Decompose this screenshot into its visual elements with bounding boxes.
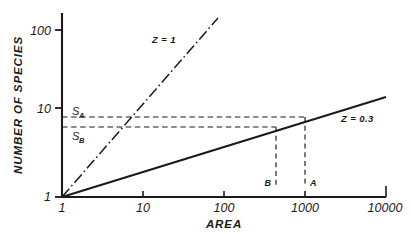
series-label-z-point-three: Z = 0.3 bbox=[340, 113, 374, 124]
y-tick-label-10: 10 bbox=[37, 102, 51, 116]
axis-group bbox=[62, 13, 386, 197]
annotation-s-a: S A bbox=[72, 105, 84, 120]
x-tick-label-1000: 1000 bbox=[291, 201, 319, 215]
chart-canvas: 1 10 100 1000 10000 1 10 100 AREA NUMBER… bbox=[0, 0, 411, 234]
annotation-s-a-subscript: A bbox=[78, 111, 84, 120]
x-tick-label-10000: 10000 bbox=[368, 201, 403, 215]
annotation-point-b-label: B bbox=[265, 178, 272, 188]
annotation-point-a-label: A bbox=[309, 178, 317, 188]
x-axis-title: AREA bbox=[205, 218, 242, 230]
series-z-one-group bbox=[62, 18, 218, 197]
x-tick-label-100: 100 bbox=[214, 201, 235, 215]
species-area-chart-figure: 1 10 100 1000 10000 1 10 100 AREA NUMBER… bbox=[0, 0, 411, 234]
annotation-s-b: S B bbox=[72, 130, 85, 145]
x-tick-marks bbox=[62, 186, 386, 197]
x-tick-label-1: 1 bbox=[59, 201, 66, 215]
y-tick-label-1: 1 bbox=[44, 190, 51, 204]
x-tick-label-10: 10 bbox=[136, 201, 150, 215]
y-tick-label-group: 1 10 100 bbox=[30, 24, 51, 204]
series-label-z-one: Z = 1 bbox=[151, 34, 176, 45]
y-axis-title: NUMBER OF SPECIES bbox=[12, 36, 24, 174]
series-z-one-line bbox=[62, 18, 218, 197]
x-tick-label-group: 1 10 100 1000 10000 bbox=[59, 201, 403, 215]
series-z-point-three-group bbox=[62, 97, 386, 197]
guide-lines-group bbox=[62, 117, 305, 186]
series-z-point-three-line bbox=[62, 97, 386, 197]
annotation-s-b-subscript: B bbox=[79, 136, 85, 145]
y-tick-label-100: 100 bbox=[30, 24, 51, 38]
